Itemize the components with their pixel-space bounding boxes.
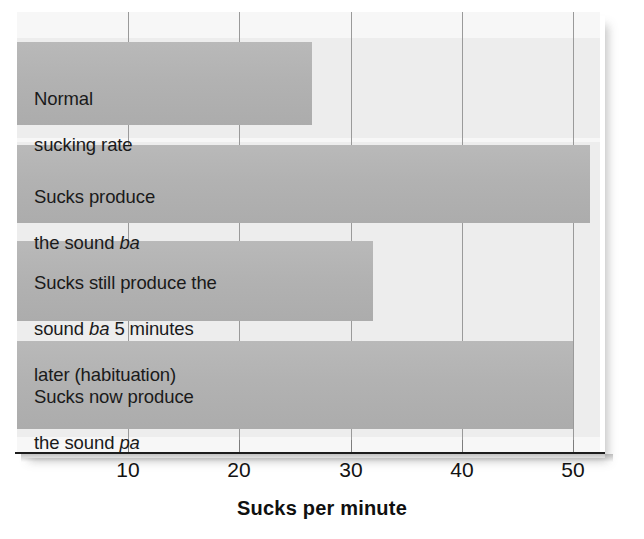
tick-mark-20 xyxy=(239,440,240,452)
x-axis-line xyxy=(15,452,605,454)
tick-label-30: 30 xyxy=(339,458,362,482)
tick-mark-40 xyxy=(462,440,463,452)
tick-label-50: 50 xyxy=(561,458,584,482)
tick-mark-10 xyxy=(128,440,129,452)
tick-label-10: 10 xyxy=(116,458,139,482)
bar-sucks-produce-sound-ba[interactable] xyxy=(17,145,590,223)
tick-mark-30 xyxy=(351,440,352,452)
x-axis-title: Sucks per minute xyxy=(0,497,644,520)
tick-label-40: 40 xyxy=(450,458,473,482)
bar-normal-sucking-rate[interactable] xyxy=(17,42,312,125)
gridline-50 xyxy=(573,12,574,452)
bar-sucks-now-produce-sound-pa[interactable] xyxy=(17,341,573,429)
plot-area: Normal sucking rate Sucks produce the so… xyxy=(17,12,600,452)
bar-chart-figure: Normal sucking rate Sucks produce the so… xyxy=(0,0,644,539)
tick-mark-50 xyxy=(573,440,574,452)
bar-sucks-still-produce-sound-ba[interactable] xyxy=(17,241,373,321)
tick-label-20: 20 xyxy=(227,458,250,482)
